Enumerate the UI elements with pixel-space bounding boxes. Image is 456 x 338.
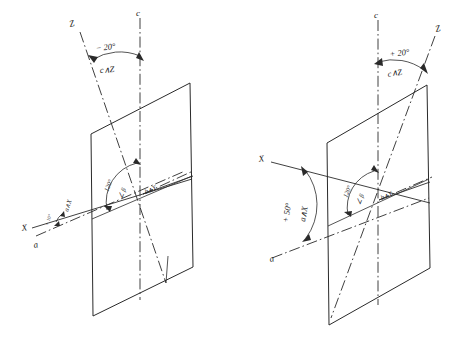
left-cz-relation-label: c∧Z: [99, 64, 114, 75]
figure-root: c Z − 20° c∧Z a X + 10° a∧X 120° ∠ β b∧Y: [0, 0, 456, 338]
right-c-axis-label: c: [374, 10, 378, 20]
left-cz-angle-value: − 20°: [95, 41, 116, 53]
canvas-background: [0, 0, 456, 338]
left-c-axis-label: c: [136, 8, 140, 18]
orientation-diagram-svg: c Z − 20° c∧Z a X + 10° a∧X 120° ∠ β b∧Y: [0, 0, 456, 338]
